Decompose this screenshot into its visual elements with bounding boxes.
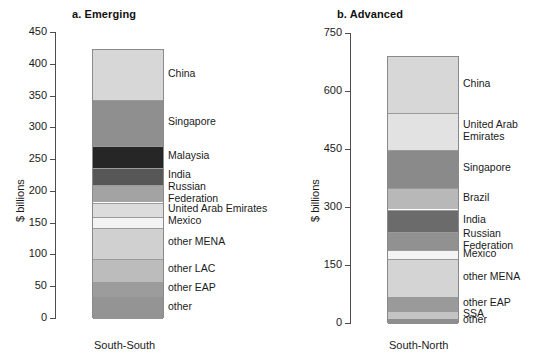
bar-segment [388,113,458,150]
bar-segment [388,232,458,250]
y-axis-tick-label: 750 [298,26,342,38]
chart-panel-advanced: b. Advanced $ billions 0150300450600750 … [0,0,537,363]
bar-segment [388,259,458,297]
panel-title-advanced: b. Advanced [337,8,403,20]
bar-segment-label: Singapore [463,162,511,174]
stacked-bar-south-north [387,56,459,323]
bar-segment-label: China [463,78,490,90]
y-axis-tick-label: 600 [298,84,342,96]
bar-segment [388,150,458,189]
bar-segment-label: United Arab Emirates [463,119,518,142]
y-axis-tick [345,33,350,34]
bar-segment-label: Mexico [463,248,496,260]
y-axis-tick [345,207,350,208]
y-axis-tick-label: 150 [298,258,342,270]
y-axis-tick [345,149,350,150]
bar-segment [388,297,458,312]
y-axis-tick [345,323,350,324]
y-axis-tick [345,265,350,266]
y-axis-tick-label: 450 [298,142,342,154]
bar-segment-label: other MENA [463,271,520,283]
bar-segment [388,188,458,209]
y-axis-line-advanced [350,33,351,324]
bar-segment [388,311,458,319]
bar-segment [388,319,458,324]
bar-segment [388,210,458,232]
y-axis-tick-label: 0 [298,316,342,328]
category-label-south-north: South-North [389,339,448,351]
y-axis-tick-label: 300 [298,200,342,212]
bar-segment-label: other [463,314,487,326]
bar-segment-label: Brazil [463,192,489,204]
bar-segment-label: India [463,214,486,226]
bar-segment [388,250,458,259]
bar-segment [388,57,458,113]
y-axis-tick [345,91,350,92]
